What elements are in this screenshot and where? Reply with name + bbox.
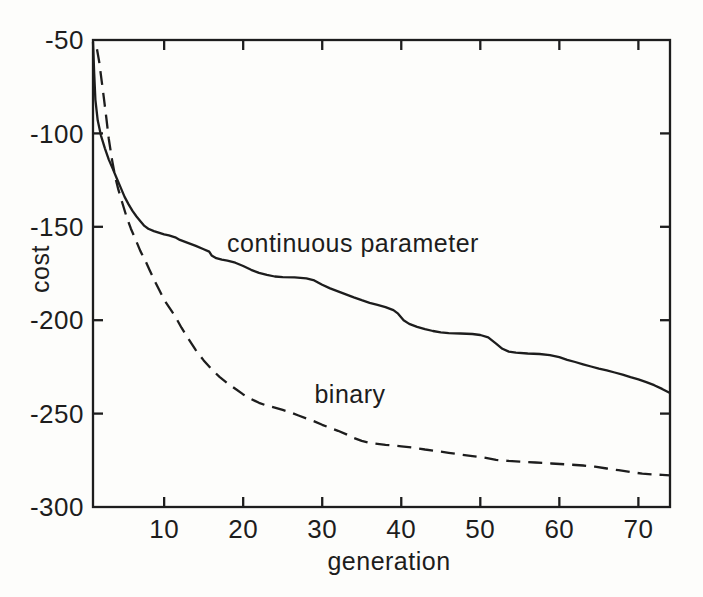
plot-area: 10203040506070-50-100-150-200-250-300 [30, 25, 670, 544]
x-axis-tick-label: 10 [149, 514, 179, 544]
plot-border [93, 40, 670, 507]
y-axis-tick-label: -50 [45, 25, 84, 55]
y-axis-tick-label: -200 [30, 305, 84, 335]
y-axis-tick-label: -300 [30, 492, 84, 522]
y-axis-tick-label: -150 [30, 212, 84, 242]
y-axis-label: cost [26, 245, 54, 293]
series-line-continuous-parameter [93, 42, 670, 393]
x-axis-tick-label: 60 [544, 514, 574, 544]
series-annotation-continuous-parameter: continuous parameter [227, 229, 479, 257]
x-axis-label: generation [327, 547, 450, 575]
cost-vs-generation-chart: 10203040506070-50-100-150-200-250-300 ge… [0, 0, 703, 597]
cost-vs-generation-figure: 10203040506070-50-100-150-200-250-300 ge… [0, 0, 703, 597]
x-axis-tick-label: 20 [228, 514, 258, 544]
y-axis-tick-label: -100 [30, 119, 84, 149]
x-axis-tick-label: 50 [465, 514, 495, 544]
x-axis-tick-label: 40 [386, 514, 416, 544]
x-axis-tick-label: 70 [623, 514, 653, 544]
x-axis-tick-label: 30 [307, 514, 337, 544]
series-annotation-binary: binary [314, 380, 385, 408]
series-line-binary [97, 49, 670, 475]
y-axis-tick-label: -250 [30, 399, 84, 429]
